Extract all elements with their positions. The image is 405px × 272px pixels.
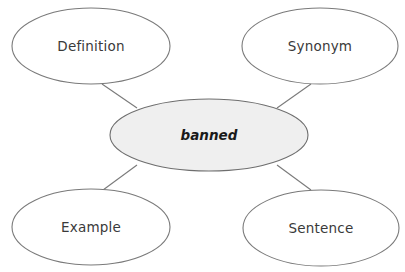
definition-label: Definition <box>57 38 124 54</box>
synonym-label: Synonym <box>288 38 352 54</box>
word-map-diagram: Definition Synonym Example Sentence bann… <box>0 0 405 272</box>
node-example: Example <box>12 189 170 265</box>
example-label: Example <box>61 219 121 235</box>
connector-definition <box>102 84 137 108</box>
node-definition: Definition <box>12 8 170 84</box>
connector-sentence <box>277 165 311 190</box>
node-sentence: Sentence <box>243 190 399 266</box>
center-word-label: banned <box>181 127 238 143</box>
sentence-label: Sentence <box>289 220 354 236</box>
connector-synonym <box>277 84 311 108</box>
connector-example <box>103 165 137 190</box>
node-center: banned <box>110 99 308 171</box>
node-synonym: Synonym <box>242 8 398 84</box>
